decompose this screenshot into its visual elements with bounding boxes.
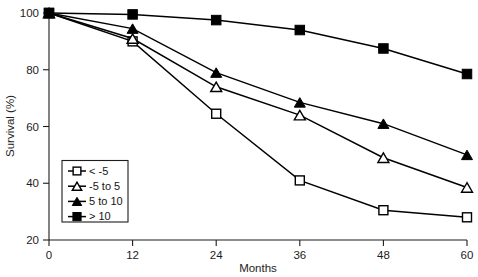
x-tick-label: 12 [126, 249, 139, 261]
y-tick-labels: 20406080100 [20, 7, 39, 246]
x-tick-label: 48 [377, 249, 390, 261]
series-10 [44, 8, 472, 79]
marker-filled-triangle [462, 150, 473, 160]
marker-filled-square [44, 8, 54, 18]
legend-item-label: -5 to 5 [89, 180, 120, 192]
legend-item-label: > 10 [89, 210, 111, 222]
x-tick-labels: 01224364860 [46, 249, 474, 261]
marker-open-square [212, 109, 221, 118]
y-tick-label: 80 [26, 64, 39, 76]
marker-filled-triangle [211, 68, 222, 78]
marker-open-triangle [211, 82, 222, 92]
x-tick-label: 24 [210, 249, 223, 261]
y-tick-label: 100 [20, 7, 39, 19]
chart-legend: < -5-5 to 55 to 10> 10 [62, 161, 128, 223]
y-tick-label: 40 [26, 177, 39, 189]
y-tick-label: 20 [26, 234, 39, 246]
marker-open-square [379, 206, 388, 215]
survival-chart: 20406080100 01224364860 Months Survival … [0, 0, 478, 277]
chart-canvas: 20406080100 01224364860 Months Survival … [0, 0, 478, 277]
x-tick-label: 0 [46, 249, 52, 261]
legend-item-label: < -5 [89, 165, 108, 177]
marker-open-square [73, 167, 81, 175]
marker-open-square [463, 213, 472, 222]
marker-filled-square [379, 44, 389, 54]
marker-filled-square [211, 15, 221, 25]
marker-open-triangle [294, 110, 305, 120]
y-tick-label: 60 [26, 121, 39, 133]
x-axis-title: Months [239, 262, 277, 274]
series-line [49, 13, 467, 74]
marker-filled-square [295, 25, 305, 35]
y-tick-marks [43, 13, 49, 240]
marker-open-square [295, 176, 304, 185]
x-tick-label: 36 [293, 249, 306, 261]
x-tick-label: 60 [461, 249, 474, 261]
legend-item-0[interactable]: < -5 [68, 165, 108, 177]
marker-filled-square [73, 213, 81, 221]
x-tick-marks [49, 240, 467, 246]
marker-open-triangle [378, 153, 389, 163]
marker-filled-square [128, 10, 138, 20]
legend-item-label: 5 to 10 [89, 195, 123, 207]
marker-filled-triangle [378, 119, 389, 129]
marker-filled-triangle [294, 98, 305, 108]
marker-filled-square [462, 69, 472, 79]
marker-open-triangle [462, 183, 473, 193]
legend-item-3[interactable]: > 10 [68, 210, 111, 222]
y-axis-title: Survival (%) [4, 95, 16, 157]
